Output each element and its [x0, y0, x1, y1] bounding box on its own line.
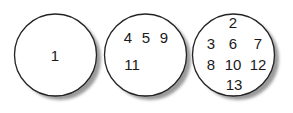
element-label: 11 [124, 56, 140, 73]
element-label: 5 [142, 29, 150, 46]
circle-1: 1 [15, 14, 102, 100]
element-label: 10 [225, 56, 242, 73]
element-label: 9 [160, 29, 168, 46]
element-label: 12 [250, 56, 267, 73]
element-label: 6 [229, 35, 237, 52]
element-label: 7 [254, 35, 262, 52]
circle-3: 2 3 6 7 8 10 12 13 [193, 14, 280, 100]
element-label: 3 [207, 35, 215, 52]
element-label: 2 [229, 14, 237, 31]
element-label: 1 [51, 47, 59, 64]
circle-2: 4 5 9 11 [105, 14, 192, 100]
element-label: 8 [207, 56, 215, 73]
circle-outline [105, 14, 187, 96]
element-label: 13 [226, 76, 243, 93]
diagram: 1 4 5 9 11 2 3 6 7 8 10 12 13 [0, 0, 293, 113]
element-label: 4 [124, 29, 132, 46]
